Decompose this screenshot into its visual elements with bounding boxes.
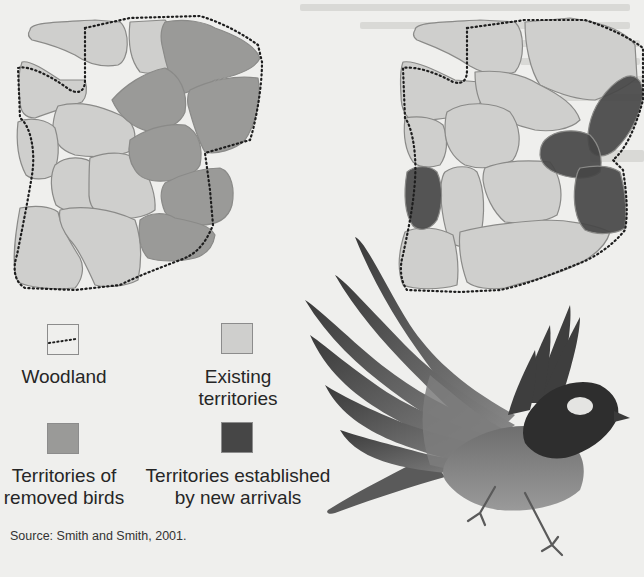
legend-label-woodland: Woodland — [0, 366, 128, 388]
bird-beak — [614, 411, 630, 422]
legend-label-removed: Territories of removed birds — [0, 465, 128, 509]
territory-existing — [29, 20, 128, 66]
territory-existing — [445, 104, 519, 168]
bird-cheek-patch — [567, 397, 593, 415]
source-citation: Source: Smith and Smith, 2001. — [10, 529, 186, 543]
territory-existing — [17, 119, 58, 179]
bird-icon — [280, 225, 644, 577]
legend-swatch-woodland — [47, 324, 79, 355]
territory-new-arrival — [574, 166, 625, 233]
territory-existing — [404, 117, 446, 167]
legend-swatch-new-arrivals — [221, 422, 253, 453]
territory-existing — [483, 161, 561, 223]
legend-swatch-removed — [47, 423, 79, 454]
territory-map-before — [0, 0, 270, 295]
legend-swatch-existing — [221, 323, 253, 354]
dotted-line-icon — [48, 325, 77, 353]
